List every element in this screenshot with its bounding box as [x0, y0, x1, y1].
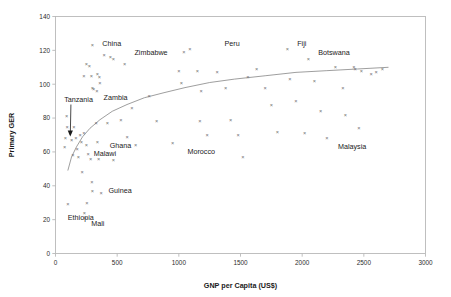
data-point-marker: × — [264, 85, 267, 91]
data-point-marker: × — [224, 85, 227, 91]
data-point-marker: × — [357, 125, 360, 131]
data-point-marker: × — [112, 56, 115, 62]
x-axis-title: GNP per Capita (US$) — [204, 281, 278, 290]
data-point-marker: × — [325, 135, 328, 141]
x-tick-label: 1500 — [233, 259, 248, 266]
y-tick-label: 100 — [39, 81, 50, 88]
data-point-marker: × — [65, 113, 68, 119]
data-point-marker: × — [241, 154, 244, 160]
data-point-marker: × — [72, 124, 75, 130]
x-tick-label: 0 — [54, 259, 58, 266]
y-tick-label: 120 — [39, 47, 50, 54]
data-point-marker: × — [199, 88, 202, 94]
data-point-marker: × — [177, 68, 180, 74]
data-point-marker: × — [96, 139, 99, 145]
data-point-marker: × — [82, 73, 85, 79]
data-point-marker: × — [313, 78, 316, 84]
data-point-marker: × — [112, 157, 115, 163]
data-point-marker: × — [236, 132, 239, 138]
data-point-marker: × — [155, 118, 158, 124]
data-point-marker: × — [66, 201, 69, 207]
data-point-marker: × — [85, 142, 88, 148]
data-point-marker: × — [188, 46, 191, 52]
data-point-marker: × — [99, 190, 102, 196]
data-point-marker: × — [74, 135, 77, 141]
data-point-marker: × — [182, 49, 185, 55]
data-point-marker: × — [70, 137, 73, 143]
data-point-marker: × — [75, 146, 78, 152]
data-point-marker: × — [109, 54, 112, 60]
point-label: Botswana — [318, 48, 350, 57]
data-point-marker: × — [106, 120, 109, 126]
data-point-marker: × — [319, 108, 322, 114]
data-point-marker: × — [198, 118, 201, 124]
data-point-marker: × — [196, 68, 199, 74]
data-point-marker: × — [215, 69, 218, 75]
data-point-marker: × — [375, 69, 378, 75]
point-label: China — [102, 39, 121, 48]
y-tick-label: 80 — [43, 114, 51, 121]
data-point-marker: × — [91, 188, 94, 194]
plot-frame — [56, 17, 426, 254]
data-point-marker: × — [148, 93, 151, 99]
point-label: Morocco — [187, 147, 215, 156]
data-point-marker: × — [71, 152, 74, 158]
plot-canvas: 0500100015002000250030000204060801001201… — [0, 0, 451, 297]
data-point-marker: × — [89, 156, 92, 162]
data-point-marker: × — [344, 112, 347, 118]
data-point-marker: × — [90, 179, 93, 185]
point-label: Fiji — [297, 39, 307, 48]
data-point-marker: × — [88, 63, 91, 69]
data-point-marker: × — [171, 140, 174, 146]
point-label: Zimbabwe — [134, 48, 167, 57]
y-tick-label: 60 — [43, 148, 51, 155]
point-label: Tanzania — [64, 95, 93, 104]
data-point-marker: × — [103, 52, 106, 58]
data-point-marker: × — [80, 139, 83, 145]
data-point-marker: × — [77, 154, 80, 160]
data-point-marker: × — [270, 102, 273, 108]
x-tick-label: 500 — [112, 259, 123, 266]
point-label: Peru — [224, 39, 239, 48]
data-point-marker: × — [125, 134, 128, 140]
data-point-marker: × — [82, 130, 85, 136]
data-point-marker: × — [288, 76, 291, 82]
data-point-marker: × — [80, 169, 83, 175]
data-point-marker: × — [286, 46, 289, 52]
data-point-marker: × — [64, 135, 67, 141]
x-tick-label: 2000 — [295, 259, 310, 266]
data-point-marker: × — [85, 200, 88, 206]
data-point-marker: × — [90, 73, 93, 79]
data-point-marker: × — [381, 66, 384, 72]
data-point-marker: × — [63, 144, 66, 150]
data-point-marker: × — [255, 66, 258, 72]
x-tick-label: 3000 — [418, 259, 433, 266]
data-point-marker: × — [354, 66, 357, 72]
data-point-marker: × — [95, 120, 98, 126]
point-label: Malaysia — [338, 142, 366, 151]
data-point-marker: × — [341, 85, 344, 91]
scatter-chart: 0500100015002000250030000204060801001201… — [0, 0, 451, 297]
point-label: Mali — [91, 219, 105, 228]
data-point-marker: × — [98, 80, 101, 86]
y-tick-label: 0 — [46, 250, 50, 257]
point-label: Zambia — [104, 93, 128, 102]
y-tick-label: 20 — [43, 216, 51, 223]
data-point-marker: × — [91, 42, 94, 48]
x-tick-label: 2500 — [357, 259, 372, 266]
point-annotations: ChinaZimbabwePeruFijiBotswanaZambiaTanza… — [64, 39, 366, 227]
data-point-marker: × — [294, 98, 297, 104]
y-tick-label: 40 — [43, 182, 51, 189]
data-point-marker: × — [360, 68, 363, 74]
data-point-marker: × — [229, 117, 232, 123]
data-point-marker: × — [134, 142, 137, 148]
data-point-marker: × — [276, 129, 279, 135]
y-tick-label: 140 — [39, 13, 50, 20]
data-point-marker: × — [180, 80, 183, 86]
data-point-marker: × — [334, 64, 337, 70]
data-point-marker: × — [119, 117, 122, 123]
data-point-marker: × — [130, 105, 133, 111]
callout-arrow — [68, 105, 73, 137]
y-axis-title: Primary GER — [7, 112, 16, 157]
data-point-marker: × — [206, 132, 209, 138]
